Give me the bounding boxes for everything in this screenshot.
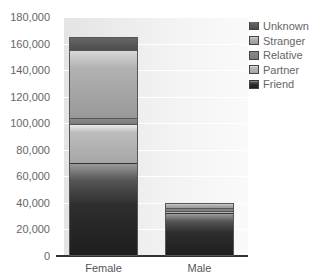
legend-item-partner: Partner (249, 63, 309, 78)
y-tick-label: 160,000 (0, 38, 50, 50)
y-tick-label: 100,000 (0, 117, 50, 129)
legend-label: Stranger (263, 35, 305, 47)
bar-segment-friend (70, 163, 137, 255)
bar-segment-stranger (70, 50, 137, 118)
legend-label: Relative (263, 49, 303, 61)
bar-male (165, 203, 234, 256)
gridline (64, 17, 248, 18)
y-tick-label: 60,000 (0, 170, 50, 182)
legend-item-friend: Friend (249, 77, 309, 92)
legend-swatch-unknown-icon (249, 22, 259, 30)
y-tick-label: 20,000 (0, 223, 50, 235)
legend-label: Friend (263, 78, 294, 90)
x-tick-label: Male (160, 262, 240, 274)
y-tick-label: 0 (0, 250, 50, 262)
legend-item-relative: Relative (249, 48, 309, 63)
legend-label: Unknown (263, 20, 309, 32)
legend-swatch-stranger-icon (249, 36, 259, 45)
bar-female (69, 37, 138, 256)
y-tick-label: 120,000 (0, 91, 50, 103)
y-tick-label: 40,000 (0, 197, 50, 209)
legend-swatch-partner-icon (249, 65, 259, 74)
bar-segment-friend (166, 213, 233, 255)
y-tick-label: 80,000 (0, 144, 50, 156)
legend-label: Partner (263, 64, 299, 76)
y-tick-label: 140,000 (0, 64, 50, 76)
legend-swatch-friend-icon (249, 80, 259, 89)
legend-item-unknown: Unknown (249, 19, 309, 34)
legend-swatch-relative-icon (249, 51, 259, 60)
legend: Unknown Stranger Relative Partner Friend (249, 19, 309, 92)
x-tick-label: Female (64, 262, 144, 274)
legend-item-stranger: Stranger (249, 34, 309, 49)
bar-segment-unknown (70, 37, 137, 50)
bar-segment-partner (70, 124, 137, 164)
y-tick-label: 180,000 (0, 11, 50, 23)
